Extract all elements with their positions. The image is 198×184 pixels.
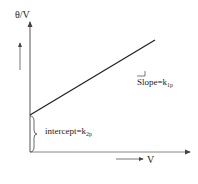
- slope-label: Slope=k1p: [137, 78, 173, 88]
- y-axis-label: θ/V: [15, 10, 30, 20]
- slope-triangle: [137, 71, 145, 76]
- intercept-label: intercept=k2p: [45, 127, 92, 137]
- slope-label-text: Slope=k: [137, 77, 167, 87]
- diagram-canvas: [0, 0, 198, 184]
- slope-subscript: 1p: [167, 82, 173, 88]
- intercept-label-text: intercept=k: [45, 126, 86, 136]
- x-axis-label: V: [147, 155, 154, 165]
- intercept-brace: [30, 116, 37, 152]
- intercept-subscript: 2p: [86, 131, 92, 137]
